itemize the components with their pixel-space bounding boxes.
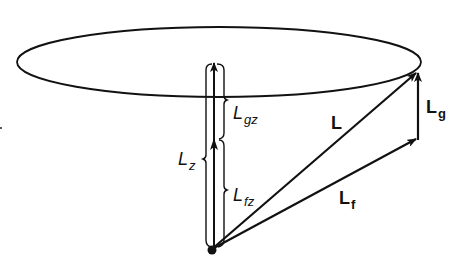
angular-momentum-diagram — [0, 0, 460, 267]
label-Lg-main: L — [426, 97, 437, 117]
lfz-brace — [218, 140, 227, 247]
label-Lg: Lg — [426, 98, 446, 116]
origin-point — [208, 246, 217, 255]
artifact-dot — [0, 127, 2, 129]
label-Lfz-main: L — [233, 185, 243, 205]
label-Lf-sub: f — [351, 197, 355, 212]
label-Lz-main: L — [178, 149, 188, 169]
label-Lz-sub: z — [189, 158, 196, 173]
label-Lfz: Lfz — [233, 186, 254, 204]
label-L: L — [331, 114, 342, 132]
label-Lgz-sub: gz — [244, 112, 258, 127]
label-Lz: Lz — [178, 150, 196, 168]
label-Lfz-sub: fz — [244, 194, 254, 209]
precession-ellipse — [17, 27, 421, 97]
label-L-main: L — [331, 113, 342, 133]
label-Lf: Lf — [339, 189, 355, 207]
lgz-brace — [217, 64, 227, 139]
label-Lgz: Lgz — [233, 104, 258, 122]
label-Lg-sub: g — [438, 106, 446, 121]
label-Lgz-main: L — [233, 103, 243, 123]
lz-bracket — [203, 64, 212, 247]
vector-L — [212, 73, 416, 249]
label-Lf-main: L — [339, 188, 350, 208]
